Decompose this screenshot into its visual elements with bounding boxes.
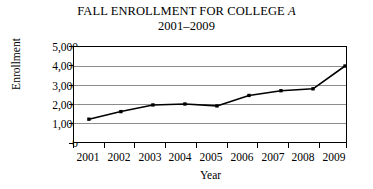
data-point-2004: [183, 102, 186, 105]
y-tick-label-1000: 1,000: [8, 118, 78, 130]
x-tick-mark-8: [319, 143, 320, 148]
data-point-2002: [119, 110, 122, 113]
x-axis-title: Year: [73, 168, 348, 182]
plot-area: [73, 46, 347, 143]
y-tick-label-5000: 5,000: [8, 41, 78, 53]
data-series-line: [89, 66, 345, 119]
x-tick-mark-7: [288, 143, 289, 148]
data-point-2008: [311, 87, 314, 90]
data-point-2005: [215, 104, 218, 107]
y-tick-label-2000: 2,000: [8, 99, 78, 111]
data-point-2009: [343, 64, 346, 67]
chart-title: FALL ENROLLMENT FOR COLLEGE A: [0, 4, 373, 19]
x-tick-mark-3: [165, 143, 166, 148]
y-tick-label-4000: 4,000: [8, 60, 78, 72]
data-point-2001: [87, 118, 90, 121]
y-tick-label-0: 0: [8, 137, 78, 149]
x-tick-mark-1: [104, 143, 105, 148]
chart-title-text: FALL ENROLLMENT FOR COLLEGE: [77, 4, 288, 18]
y-tick-label-3000: 3,000: [8, 80, 78, 92]
chart-subtitle: 2001–2009: [0, 19, 373, 34]
data-point-2003: [151, 103, 154, 106]
data-series-markers: [87, 64, 346, 121]
plot-svg: [74, 47, 346, 142]
x-tick-mark-5: [227, 143, 228, 148]
x-tick-mark-2: [134, 143, 135, 148]
enrollment-line-chart: FALL ENROLLMENT FOR COLLEGE A 2001–2009 …: [0, 0, 373, 189]
x-tick-label-2009: 2009: [314, 151, 354, 164]
chart-title-college-letter: A: [288, 4, 296, 18]
x-tick-mark-9: [346, 143, 347, 148]
x-tick-mark-0: [73, 143, 74, 148]
gridlines: [74, 66, 346, 123]
x-tick-mark-4: [196, 143, 197, 148]
data-point-2006: [247, 94, 250, 97]
data-point-2007: [279, 89, 282, 92]
x-tick-mark-6: [257, 143, 258, 148]
